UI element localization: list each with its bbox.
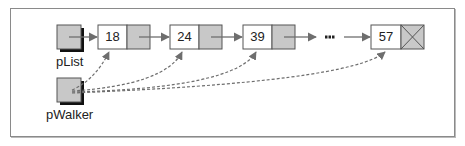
node-value-57: 57 <box>371 25 401 49</box>
plist-pointer-box <box>57 25 84 52</box>
walker-arrows <box>72 52 385 93</box>
node-value-39: 39 <box>243 25 272 49</box>
node-value-18: 18 <box>98 25 127 49</box>
plist-label: pList <box>56 54 83 69</box>
pwalker-label: pWalker <box>46 107 93 122</box>
ellipsis-icon <box>325 36 335 39</box>
node-value-24: 24 <box>170 25 199 49</box>
linked-list-diagram <box>0 0 465 146</box>
